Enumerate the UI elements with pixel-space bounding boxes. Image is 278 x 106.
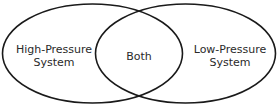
low-pressure-label-line2: System xyxy=(194,56,267,69)
low-pressure-label-line1: Low-Pressure xyxy=(194,43,267,56)
both-label-text: Both xyxy=(126,50,152,63)
venn-diagram: High-Pressure System Both Low-Pressure S… xyxy=(0,0,278,106)
high-pressure-label-line2: System xyxy=(16,56,92,69)
high-pressure-label-line1: High-Pressure xyxy=(16,43,92,56)
high-pressure-label: High-Pressure System xyxy=(16,43,92,69)
both-label: Both xyxy=(126,50,152,63)
low-pressure-label: Low-Pressure System xyxy=(194,43,267,69)
